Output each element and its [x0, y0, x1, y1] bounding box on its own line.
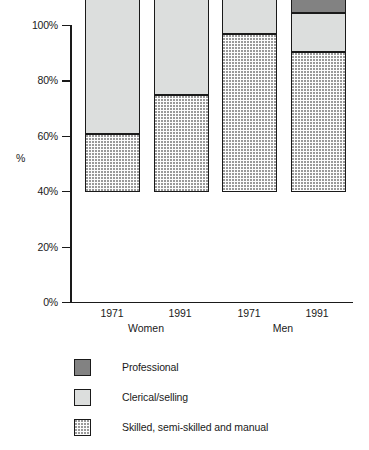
bar-women-1971[interactable]: [85, 0, 140, 192]
y-tick-label-80: 80%: [12, 75, 58, 86]
y-tick-100: [62, 25, 70, 26]
bar-segment-clerical[interactable]: [291, 13, 346, 52]
bar-segment-clerical[interactable]: [222, 0, 277, 34]
group-label-men: Men: [238, 322, 328, 334]
swatch-manual-icon: [74, 419, 91, 436]
bar-segment-manual[interactable]: [85, 134, 140, 192]
y-axis-line: [70, 25, 72, 302]
plot-area: % 100% 80% 60% 40% 20% 0% 1971 1991 1971…: [0, 0, 369, 340]
legend-item-manual[interactable]: Skilled, semi-skilled and manual: [74, 412, 364, 442]
x-axis-line: [70, 302, 353, 304]
x-label-men-1971: 1971: [214, 307, 284, 319]
chart-page: % 100% 80% 60% 40% 20% 0% 1971 1991 1971…: [0, 0, 369, 450]
swatch-professional-icon: [74, 359, 91, 376]
bar-men-1991[interactable]: [291, 0, 346, 192]
y-tick-40: [62, 191, 70, 192]
legend-label-professional: Professional: [122, 361, 179, 373]
y-tick-60: [62, 136, 70, 137]
x-label-women-1971: 1971: [77, 307, 147, 319]
y-tick-label-60: 60%: [12, 131, 58, 142]
y-tick-label-40: 40%: [12, 186, 58, 197]
legend-label-clerical: Clerical/selling: [122, 391, 188, 403]
y-axis-title: %: [16, 152, 25, 164]
y-tick-80: [62, 80, 70, 81]
bar-men-1971[interactable]: [222, 0, 277, 192]
legend-item-professional[interactable]: Professional: [74, 352, 364, 382]
y-tick-20: [62, 247, 70, 248]
y-tick-label-100: 100%: [12, 20, 58, 31]
bar-segment-manual[interactable]: [154, 95, 209, 192]
legend-label-manual: Skilled, semi-skilled and manual: [122, 421, 268, 433]
swatch-clerical-icon: [74, 389, 91, 406]
bar-segment-professional[interactable]: [291, 0, 346, 13]
legend-item-clerical[interactable]: Clerical/selling: [74, 382, 364, 412]
bar-segment-manual[interactable]: [222, 34, 277, 192]
x-label-women-1991: 1991: [145, 307, 215, 319]
y-tick-0: [62, 302, 70, 303]
group-label-women: Women: [101, 322, 191, 334]
bar-segment-manual[interactable]: [291, 52, 346, 192]
y-tick-label-0: 0%: [12, 297, 58, 308]
bar-women-1991[interactable]: [154, 0, 209, 192]
chart-legend: Professional Clerical/selling Skilled, s…: [74, 352, 364, 442]
bar-segment-clerical[interactable]: [85, 0, 140, 134]
x-label-men-1991: 1991: [282, 307, 352, 319]
y-tick-label-20: 20%: [12, 242, 58, 253]
bar-segment-clerical[interactable]: [154, 0, 209, 95]
